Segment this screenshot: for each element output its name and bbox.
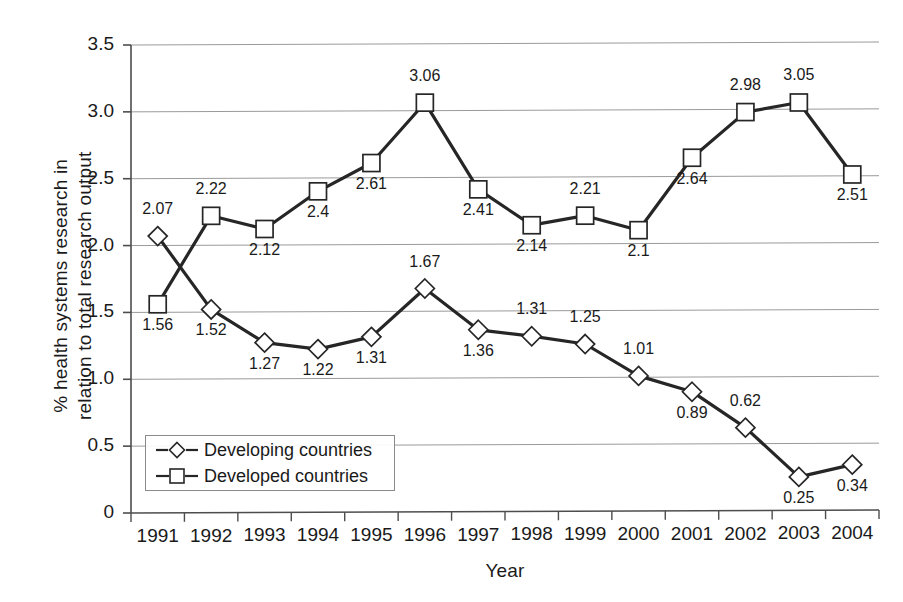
data-point-marker xyxy=(843,455,862,474)
legend-label-developed: Developed countries xyxy=(204,466,368,487)
y-tick-label: 2.5 xyxy=(56,167,114,189)
y-axis-title-line2: relation to total research output xyxy=(73,76,97,496)
data-point-label: 1.22 xyxy=(293,361,343,379)
data-point-marker xyxy=(149,296,166,313)
x-tick-label: 1995 xyxy=(343,524,399,546)
data-point-label: 1.36 xyxy=(453,342,503,360)
gridline xyxy=(131,176,879,179)
y-tick-label: 3.0 xyxy=(56,100,114,122)
legend-item-developing: Developing countries xyxy=(154,437,372,463)
data-point-label: 0.34 xyxy=(827,477,877,495)
data-point-marker xyxy=(523,217,540,234)
data-point-label: 0.89 xyxy=(667,404,717,422)
data-point-label: 1.31 xyxy=(346,349,396,367)
data-point-marker xyxy=(630,222,647,239)
data-point-label: 1.25 xyxy=(560,308,610,326)
data-point-label: 2.98 xyxy=(720,76,770,94)
data-point-marker xyxy=(790,94,807,111)
data-point-marker xyxy=(470,181,487,198)
y-tick-label: 0.5 xyxy=(56,434,114,456)
data-point-label: 2.41 xyxy=(453,201,503,219)
data-point-label: 1.01 xyxy=(614,340,664,358)
y-tick-label: 3.5 xyxy=(56,33,114,55)
y-axis-title: % health systems research in relation to… xyxy=(49,76,97,496)
data-point-label: 3.05 xyxy=(774,66,824,84)
data-point-label: 1.56 xyxy=(133,316,183,334)
y-axis-title-line1: % health systems research in xyxy=(49,76,73,496)
x-tick-label: 2003 xyxy=(771,522,827,544)
data-point-marker xyxy=(363,155,380,172)
data-point-marker xyxy=(577,207,594,224)
data-point-marker xyxy=(256,220,273,237)
x-tick-label: 2000 xyxy=(611,523,667,545)
y-tick-label: 1.5 xyxy=(56,300,114,322)
legend-label-developing: Developing countries xyxy=(204,440,372,461)
data-point-marker xyxy=(684,149,701,166)
x-tick-label: 1994 xyxy=(290,524,346,546)
x-tick-label: 1991 xyxy=(130,525,186,547)
data-point-marker xyxy=(309,340,328,359)
gridline xyxy=(131,42,879,45)
x-tick-label: 2001 xyxy=(664,523,720,545)
data-point-label: 1.27 xyxy=(240,355,290,373)
x-tick-label: 2002 xyxy=(717,523,773,545)
data-point-label: 1.52 xyxy=(186,321,236,339)
series-line-developed xyxy=(158,103,853,305)
x-tick-label: 1996 xyxy=(397,524,453,546)
y-tick-label: 0 xyxy=(56,501,114,523)
data-point-marker xyxy=(576,335,595,354)
data-point-label: 2.61 xyxy=(346,175,396,193)
legend: Developing countries Developed countries xyxy=(145,435,395,491)
data-point-label: 2.51 xyxy=(827,186,877,204)
x-tick-label: 1999 xyxy=(557,523,613,545)
x-tick-label: 1997 xyxy=(450,524,506,546)
legend-item-developed: Developed countries xyxy=(154,463,368,489)
y-tick-label: 1.0 xyxy=(56,367,114,389)
data-point-marker xyxy=(310,183,327,200)
data-point-label: 2.1 xyxy=(614,242,664,260)
data-point-label: 2.64 xyxy=(667,170,717,188)
data-point-marker xyxy=(416,94,433,111)
data-point-marker xyxy=(255,333,274,352)
data-point-marker xyxy=(203,207,220,224)
square-marker-icon xyxy=(154,465,200,487)
series-markers xyxy=(148,94,862,486)
x-tick-label: 1998 xyxy=(504,523,560,545)
x-tick-label: 2004 xyxy=(824,522,880,544)
data-point-label: 3.06 xyxy=(400,67,450,85)
data-point-marker xyxy=(522,327,541,346)
data-point-marker xyxy=(844,166,861,183)
data-point-marker xyxy=(629,366,648,385)
data-point-label: 1.67 xyxy=(400,253,450,271)
x-tick-label: 1993 xyxy=(237,524,293,546)
diamond-marker-icon xyxy=(154,439,200,461)
data-point-label: 2.21 xyxy=(560,180,610,198)
y-tick-marks xyxy=(123,45,131,513)
x-axis-title: Year xyxy=(131,560,879,582)
y-tick-label: 2.0 xyxy=(56,234,114,256)
data-point-label: 2.14 xyxy=(507,237,557,255)
gridline xyxy=(131,309,879,312)
data-point-label: 2.07 xyxy=(133,200,183,218)
data-point-label: 1.31 xyxy=(507,300,557,318)
data-point-label: 0.62 xyxy=(720,392,770,410)
data-point-label: 2.4 xyxy=(293,203,343,221)
x-tick-label: 1992 xyxy=(183,525,239,547)
data-point-label: 2.22 xyxy=(186,180,236,198)
data-point-label: 0.25 xyxy=(774,489,824,507)
data-point-marker xyxy=(737,104,754,121)
data-point-label: 2.12 xyxy=(240,241,290,259)
line-chart: % health systems research in relation to… xyxy=(0,0,903,602)
data-point-marker xyxy=(683,382,702,401)
gridline xyxy=(131,376,879,379)
